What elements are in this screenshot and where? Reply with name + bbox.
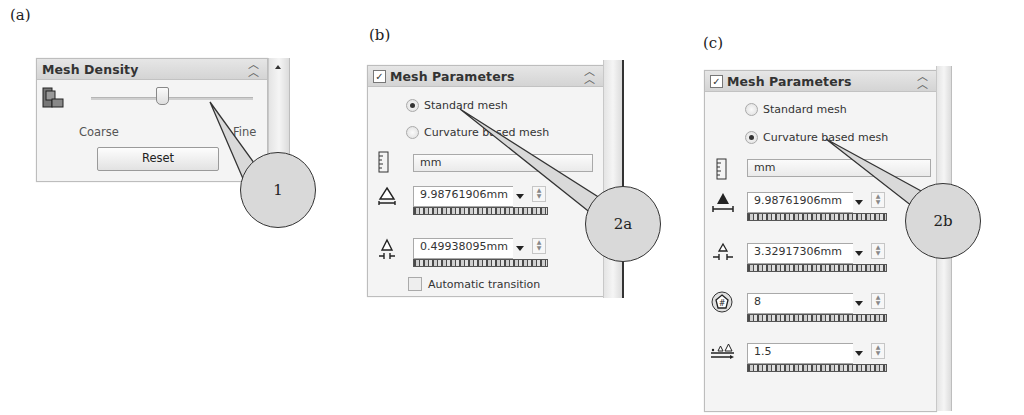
callout-2b: 2b [905,183,981,259]
callout-1: 1 [240,152,316,228]
callout-2a: 2a [585,186,661,262]
callout-pointers [0,0,1024,415]
